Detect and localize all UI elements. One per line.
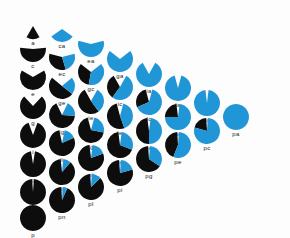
blue-sector — [136, 63, 162, 87]
wedge-glyph — [192, 88, 222, 118]
wedge-node-pc[interactable]: pc — [192, 116, 222, 146]
wedge-glyph — [76, 29, 106, 59]
blue-sector — [78, 41, 104, 57]
wedge-glyph — [105, 72, 135, 102]
wedge-glyph — [18, 34, 48, 64]
wedge-glyph — [18, 203, 48, 233]
wedge-glyph — [47, 71, 77, 101]
wedge-glyph — [18, 62, 48, 92]
wedge-glyph — [18, 149, 48, 179]
blue-sector — [149, 118, 162, 144]
wedge-node-ic[interactable]: ic — [105, 72, 135, 102]
wedge-glyph — [134, 87, 164, 117]
wedge-node-ea[interactable]: ea — [76, 29, 106, 59]
wedge-node-label: pi — [117, 187, 122, 194]
blue-sector — [223, 104, 249, 130]
wedge-glyph — [134, 116, 164, 146]
wedge-node-c[interactable]: c — [18, 34, 48, 64]
black-sector — [49, 159, 75, 185]
wedge-glyph — [221, 102, 251, 132]
wedge-node-pa[interactable]: pa — [221, 102, 251, 132]
wedge-node-pn[interactable]: pn — [47, 185, 77, 215]
black-sector — [20, 205, 46, 231]
black-sector — [20, 71, 46, 91]
wedge-node-ie[interactable]: ie — [76, 86, 106, 116]
wedge-node-ga[interactable]: ga — [105, 44, 135, 74]
wedge-node-label: pl — [88, 201, 93, 208]
blue-sector — [165, 75, 191, 101]
wedge-node-ia[interactable]: ia — [134, 59, 164, 89]
wedge-node-le[interactable]: le — [105, 101, 135, 131]
wedge-glyph — [163, 130, 193, 160]
wedge-glyph — [76, 86, 106, 116]
wedge-node-p[interactable]: p — [18, 203, 48, 233]
wedge-glyph — [76, 115, 106, 145]
wedge-node-g[interactable]: g — [18, 91, 48, 121]
wedge-glyph — [163, 73, 193, 103]
wedge-node-nc[interactable]: nc — [163, 102, 193, 132]
wedge-node-gc[interactable]: gc — [76, 57, 106, 87]
blue-sector — [89, 64, 104, 85]
wedge-node-pl[interactable]: pl — [76, 172, 106, 202]
wedge-node-label: pn — [58, 214, 65, 221]
black-sector — [49, 54, 66, 70]
wedge-glyph — [134, 59, 164, 89]
wedge-glyph — [47, 100, 77, 130]
wedge-glyph — [47, 185, 77, 215]
wedge-glyph — [47, 42, 77, 72]
wedge-glyph — [47, 14, 77, 44]
wedge-node-label: pg — [145, 173, 152, 180]
wedge-node-l[interactable]: l — [18, 149, 48, 179]
wedge-glyph — [105, 101, 135, 131]
wedge-glyph — [76, 143, 106, 173]
wedge-node-lg[interactable]: lg — [76, 115, 106, 145]
wedge-node-i[interactable]: i — [18, 120, 48, 150]
blue-sector — [62, 103, 75, 116]
wedge-glyph — [76, 57, 106, 87]
black-sector — [20, 48, 46, 62]
wedge-node-ig[interactable]: ig — [47, 100, 77, 130]
wedge-glyph — [192, 116, 222, 146]
black-sector — [165, 104, 178, 117]
black-sector — [20, 151, 46, 177]
wedge-glyph — [163, 102, 193, 132]
black-sector — [78, 64, 91, 85]
wedge-node-na[interactable]: na — [192, 88, 222, 118]
wedge-node-ge[interactable]: ge — [47, 71, 77, 101]
wedge-node-pg[interactable]: pg — [134, 144, 164, 174]
wedge-node-e[interactable]: e — [18, 62, 48, 92]
diagram-canvas: acegilnpcaecgeiglinlpneagcielgniplgaicle… — [0, 0, 290, 238]
wedge-node-li[interactable]: li — [47, 128, 77, 158]
black-sector — [49, 187, 75, 213]
wedge-node-label: pa — [232, 131, 239, 138]
wedge-node-ec[interactable]: ec — [47, 42, 77, 72]
wedge-node-label: pe — [174, 159, 181, 166]
wedge-node-ni[interactable]: ni — [76, 143, 106, 173]
wedge-node-nl[interactable]: nl — [47, 157, 77, 187]
wedge-node-ng[interactable]: ng — [105, 130, 135, 160]
wedge-glyph — [47, 128, 77, 158]
wedge-node-pe[interactable]: pe — [163, 130, 193, 160]
black-sector — [20, 179, 46, 205]
blue-sector — [91, 117, 104, 132]
black-sector — [20, 96, 46, 119]
wedge-glyph — [76, 172, 106, 202]
blue-sector — [51, 29, 72, 42]
wedge-glyph — [105, 44, 135, 74]
black-sector — [20, 123, 46, 148]
wedge-glyph — [18, 91, 48, 121]
black-sector — [136, 118, 149, 144]
wedge-node-ne[interactable]: ne — [134, 116, 164, 146]
wedge-glyph — [47, 157, 77, 187]
blue-sector — [107, 51, 133, 72]
wedge-node-label: p — [31, 232, 35, 238]
blue-sector — [194, 90, 220, 116]
wedge-node-ca[interactable]: ca — [47, 14, 77, 44]
wedge-node-pi[interactable]: pi — [105, 158, 135, 188]
wedge-node-label: pc — [203, 145, 210, 152]
wedge-node-la[interactable]: la — [163, 73, 193, 103]
wedge-glyph — [18, 120, 48, 150]
wedge-node-lc[interactable]: lc — [134, 87, 164, 117]
wedge-glyph — [105, 130, 135, 160]
wedge-glyph — [105, 158, 135, 188]
